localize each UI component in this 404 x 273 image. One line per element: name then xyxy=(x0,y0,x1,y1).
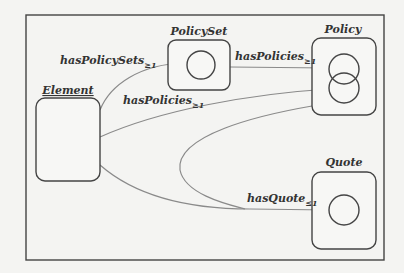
node-element[interactable] xyxy=(36,98,100,181)
node-policyset-label: PolicySet xyxy=(170,25,228,38)
node-policyset[interactable] xyxy=(168,40,230,90)
diagram-canvas: Element PolicySet Policy Quote hasPolicy… xyxy=(0,0,404,273)
node-policy-label: Policy xyxy=(324,23,363,36)
edge-label-haspolicies-from-policyset: hasPolicies≥1 xyxy=(235,50,316,66)
edge-label-haspolicies-from-element: hasPolicies≥1 xyxy=(123,94,204,110)
edge-label-haspolicysets: hasPolicySets≥1 xyxy=(60,54,157,70)
node-quote-label: Quote xyxy=(326,156,363,169)
node-policy[interactable] xyxy=(312,38,376,115)
edge-label-hasquote: hasQuote≤1 xyxy=(247,192,318,208)
node-element-label: Element xyxy=(41,84,93,97)
node-quote[interactable] xyxy=(312,172,376,249)
